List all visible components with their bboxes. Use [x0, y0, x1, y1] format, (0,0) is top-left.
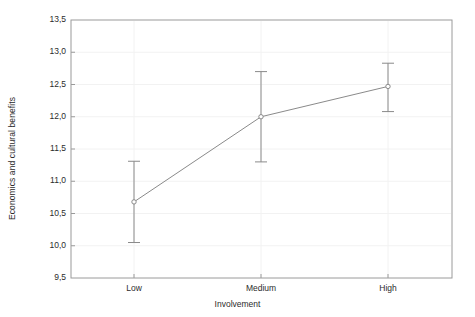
y-tick-label: 9,5 — [28, 273, 66, 282]
x-tick-label: Low — [126, 283, 142, 293]
y-tick-label: 10,0 — [28, 241, 66, 250]
error-bar-chart: Economics and cultural benefits 13,513,0… — [0, 0, 475, 317]
y-tick-marks — [71, 52, 75, 246]
data-point-marker — [132, 200, 136, 204]
x-axis-tick-labels: LowMediumHigh — [0, 283, 475, 297]
x-tick-label: Medium — [246, 283, 276, 293]
y-tick-label: 11,0 — [28, 176, 66, 185]
data-point-marker — [386, 84, 390, 88]
y-tick-label: 13,5 — [28, 15, 66, 24]
y-tick-label: 13,0 — [28, 47, 66, 56]
data-point-marker — [259, 115, 263, 119]
y-tick-label: 10,5 — [28, 209, 66, 218]
x-axis-title: Involvement — [0, 299, 475, 309]
y-tick-label: 12,0 — [28, 112, 66, 121]
x-tick-marks — [134, 274, 388, 278]
x-tick-label: High — [379, 283, 396, 293]
y-tick-label: 11,5 — [28, 144, 66, 153]
x-axis-title-text: Involvement — [215, 299, 261, 309]
y-axis-tick-labels: 13,513,012,512,011,511,010,510,09,5 — [28, 0, 66, 317]
y-tick-label: 12,5 — [28, 80, 66, 89]
plot-area — [0, 0, 475, 317]
